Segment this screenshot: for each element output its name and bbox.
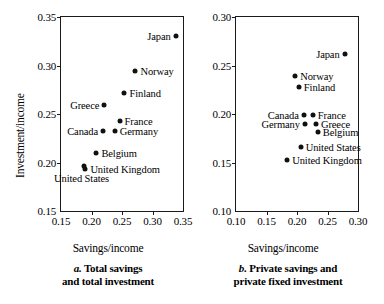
data-point-germany-b bbox=[302, 121, 307, 126]
data-point-united-states-a bbox=[81, 164, 86, 169]
x-tick-label-a-2: 0.25 bbox=[113, 215, 131, 227]
y-tick-label-b-4: 0.30 bbox=[213, 11, 231, 23]
data-point-united-kingdom-b bbox=[285, 157, 290, 162]
data-point-greece-a bbox=[102, 103, 107, 108]
point-label-germany-b: Germany bbox=[262, 118, 300, 129]
data-point-norway-b bbox=[293, 74, 298, 79]
point-label-france-a: France bbox=[125, 115, 153, 126]
point-label-canada-a: Canada bbox=[67, 126, 98, 137]
data-point-japan-b bbox=[342, 51, 347, 56]
y-tick-b-2 bbox=[232, 114, 236, 115]
plot-area-b: 0.100.150.200.250.300.100.150.200.250.30… bbox=[235, 16, 359, 212]
y-axis-title-a: Investment/income bbox=[14, 93, 26, 178]
y-tick-b-1 bbox=[232, 163, 236, 164]
data-point-france-b bbox=[310, 112, 315, 117]
savings-investment-figure: 0.150.200.250.300.350.150.200.250.300.35… bbox=[0, 0, 384, 304]
point-label-japan-a: Japan bbox=[147, 31, 170, 42]
point-label-japan-b: Japan bbox=[316, 48, 339, 59]
x-tick-label-a-0: 0.15 bbox=[52, 215, 70, 227]
data-point-belgium-a bbox=[94, 150, 99, 155]
chart-panel-a: 0.150.200.250.300.350.150.200.250.300.35… bbox=[0, 0, 196, 304]
x-axis-title-a: Savings/income bbox=[32, 242, 184, 254]
point-label-finland-b: Finland bbox=[304, 81, 335, 92]
caption-b-line2: private fixed investment bbox=[234, 275, 343, 287]
data-point-germany-a bbox=[112, 129, 117, 134]
y-tick-label-a-3: 0.30 bbox=[38, 60, 56, 72]
data-point-japan-a bbox=[173, 34, 178, 39]
data-point-canada-a bbox=[101, 129, 106, 134]
y-tick-label-a-2: 0.25 bbox=[38, 108, 56, 120]
y-tick-b-4 bbox=[232, 17, 236, 18]
caption-b-line1: Private savings and bbox=[247, 262, 337, 274]
x-tick-label-b-0: 0.10 bbox=[227, 215, 245, 227]
plot-area-a: 0.150.200.250.300.350.150.200.250.300.35… bbox=[60, 16, 184, 212]
y-tick-label-b-1: 0.15 bbox=[213, 157, 231, 169]
chart-panel-b: 0.100.150.200.250.300.100.150.200.250.30… bbox=[196, 0, 384, 304]
x-tick-label-b-1: 0.15 bbox=[257, 215, 275, 227]
caption-a-line1: Total savings bbox=[82, 262, 143, 274]
y-tick-a-2 bbox=[57, 114, 61, 115]
point-label-united-states-b: United States bbox=[306, 141, 361, 152]
y-tick-label-a-1: 0.20 bbox=[38, 157, 56, 169]
point-label-norway-b: Norway bbox=[300, 71, 333, 82]
caption-a-line2: and total investment bbox=[62, 275, 154, 287]
y-tick-label-a-4: 0.35 bbox=[38, 11, 56, 23]
y-tick-a-4 bbox=[57, 17, 61, 18]
caption-a-letter: a. bbox=[74, 262, 82, 274]
data-point-united-states-b bbox=[298, 144, 303, 149]
point-label-norway-a: Norway bbox=[140, 66, 173, 77]
x-tick-label-b-3: 0.25 bbox=[318, 215, 336, 227]
x-tick-label-b-4: 0.30 bbox=[349, 215, 367, 227]
point-label-united-kingdom-b: United Kingdom bbox=[292, 154, 361, 165]
y-tick-a-1 bbox=[57, 163, 61, 164]
y-tick-a-3 bbox=[57, 66, 61, 67]
data-point-greece-b bbox=[313, 121, 318, 126]
caption-b: b. Private savings and private fixed inv… bbox=[204, 262, 372, 288]
point-label-belgium-b: Belgium bbox=[323, 127, 358, 138]
y-tick-b-3 bbox=[232, 66, 236, 67]
caption-b-letter: b. bbox=[239, 262, 247, 274]
point-label-germany-a: Germany bbox=[120, 126, 158, 137]
data-point-finland-b bbox=[296, 84, 301, 89]
x-tick-label-b-2: 0.20 bbox=[288, 215, 306, 227]
y-tick-label-b-2: 0.20 bbox=[213, 108, 231, 120]
point-label-greece-a: Greece bbox=[70, 100, 99, 111]
data-point-finland-a bbox=[122, 90, 127, 95]
point-label-belgium-a: Belgium bbox=[101, 147, 136, 158]
point-label-united-states-a: United States bbox=[54, 173, 109, 184]
y-tick-label-b-3: 0.25 bbox=[213, 60, 231, 72]
data-point-france-a bbox=[117, 118, 122, 123]
caption-a: a. Total savings and total investment bbox=[30, 262, 186, 288]
data-point-canada-b bbox=[301, 112, 306, 117]
x-tick-label-a-1: 0.20 bbox=[82, 215, 100, 227]
x-axis-title-b: Savings/income bbox=[207, 242, 359, 254]
data-point-norway-a bbox=[133, 69, 138, 74]
point-label-finland-a: Finland bbox=[129, 87, 160, 98]
x-tick-label-a-4: 0.35 bbox=[174, 215, 192, 227]
x-tick-label-a-3: 0.30 bbox=[143, 215, 161, 227]
data-point-belgium-b bbox=[315, 130, 320, 135]
